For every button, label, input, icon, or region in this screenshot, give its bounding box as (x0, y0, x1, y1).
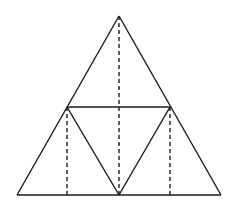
subdivided-triangle-diagram (0, 0, 232, 214)
inner-left-edge-line (67, 107, 119, 195)
solid-lines (17, 16, 221, 195)
inner-right-edge-line (119, 107, 170, 195)
dashed-altitudes (67, 16, 170, 195)
